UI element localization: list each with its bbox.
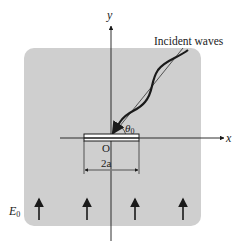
- incident-waves-label: Incident waves: [154, 35, 224, 47]
- width-label: 2a: [101, 157, 112, 169]
- diagram-canvas: y x Incident waves θ0 O 2a E0: [0, 0, 243, 241]
- origin-label: O: [102, 142, 110, 154]
- x-axis-label: x: [225, 131, 232, 145]
- field-label: E0: [8, 204, 20, 219]
- y-axis-label: y: [106, 8, 113, 22]
